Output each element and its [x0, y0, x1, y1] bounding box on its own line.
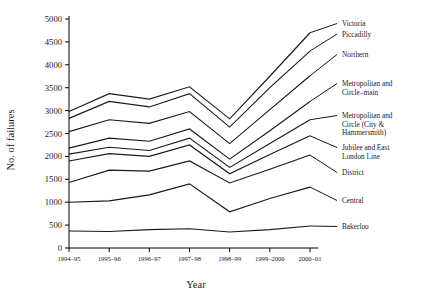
- legend-leader-line: [310, 155, 337, 172]
- legend-label: Bakerloo: [342, 222, 369, 231]
- x-axis: 1994–951995–961996–971997–981998–991999–…: [57, 248, 321, 262]
- x-tick-label: 1994–95: [57, 255, 81, 262]
- legend-leader-line: [310, 24, 337, 33]
- y-tick-label: 3000: [45, 106, 62, 116]
- series-line: [69, 226, 310, 232]
- y-tick-label: 5000: [45, 14, 62, 24]
- x-tick-label: 1995–96: [98, 255, 122, 262]
- legend-leader-line: [310, 84, 337, 102]
- x-tick-label: 1999–2000: [255, 255, 285, 262]
- legend-label: District: [342, 168, 364, 177]
- y-tick-label: 3500: [45, 83, 62, 93]
- legend-leader-line: [310, 55, 337, 76]
- legend-label: Central: [342, 196, 363, 205]
- y-tick-label: 2500: [45, 129, 62, 139]
- legend-leader-lines: [310, 24, 337, 227]
- y-tick-label: 500: [49, 220, 62, 230]
- failures-line-chart: 0500100015002000250030003500400045005000…: [0, 0, 423, 296]
- y-tick-label: 4000: [45, 60, 62, 70]
- y-tick-label: 0: [58, 243, 62, 253]
- y-tick-label: 1000: [45, 197, 62, 207]
- legend-label: London Line: [342, 152, 380, 161]
- x-tick-label: 1997–98: [178, 255, 202, 262]
- legend-label: Piccadilly: [342, 30, 372, 39]
- x-tick-label: 1998–99: [218, 255, 242, 262]
- y-tick-label: 4500: [45, 37, 62, 47]
- y-tick-label: 2000: [45, 151, 62, 161]
- y-tick-label: 1500: [45, 174, 62, 184]
- legend-leader-line: [310, 34, 337, 51]
- series-line: [69, 155, 310, 183]
- chart-canvas: 0500100015002000250030003500400045005000…: [0, 0, 423, 296]
- legend-labels: VictoriaPiccadillyNorthernMetropolitan a…: [342, 19, 393, 231]
- series-line: [69, 51, 310, 127]
- series-line: [69, 120, 310, 168]
- legend-leader-line: [310, 116, 337, 120]
- series-lines: [69, 33, 310, 232]
- legend-leader-line: [310, 187, 337, 200]
- series-line: [69, 184, 310, 212]
- x-tick-label: 1996–97: [138, 255, 162, 262]
- legend-label: Circle–main: [342, 88, 378, 97]
- legend-label: Hammersmith): [342, 128, 387, 137]
- y-axis-title: No. of failures: [5, 110, 16, 171]
- x-tick-label: 2000–01: [298, 255, 321, 262]
- y-axis: 0500100015002000250030003500400045005000: [45, 14, 69, 253]
- x-axis-title: Year: [186, 279, 206, 290]
- series-line: [69, 101, 310, 159]
- legend-label: Northern: [342, 50, 369, 59]
- series-line: [69, 76, 310, 144]
- legend-leader-line: [310, 136, 337, 148]
- legend-label: Victoria: [342, 19, 366, 28]
